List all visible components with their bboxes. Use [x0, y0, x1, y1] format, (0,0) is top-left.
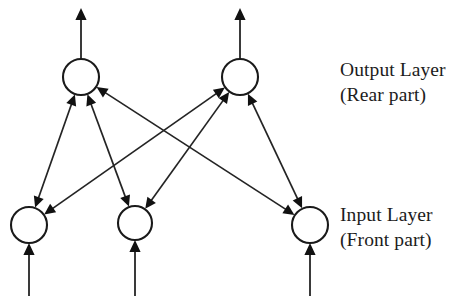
connection-i2-o1 [86, 94, 130, 206]
input-node-2 [118, 206, 152, 240]
input-arrow-3 [304, 243, 315, 296]
input-arrow-1 [23, 243, 34, 296]
connection-i2-o2 [145, 92, 229, 209]
input-arrow-1-head [23, 243, 34, 255]
output-layer-label-line2: (Rear part) [340, 84, 426, 106]
arrowhead-to-o1 [66, 94, 76, 106]
connection-i3-o1 [97, 87, 295, 215]
output-arrow-1 [75, 8, 86, 59]
input-layer-label-line1: Input Layer [340, 204, 433, 225]
arrowhead-to-o1 [86, 94, 96, 106]
input-arrow-2-head [129, 240, 140, 252]
output-node-2 [222, 59, 258, 95]
input-arrow-2 [129, 240, 140, 296]
arrowhead-to-i1 [34, 195, 44, 207]
output-arrow-2 [234, 8, 245, 59]
input-node-3 [292, 207, 328, 243]
output-node-1 [63, 59, 99, 95]
arrowhead-to-i1 [44, 204, 56, 215]
input-arrow-3-head [304, 243, 315, 255]
input-layer-label-line2: (Front part) [340, 229, 432, 251]
external-arrows-group [23, 8, 315, 296]
output-layer-label-line1: Output Layer [340, 59, 446, 80]
output-layer-label: Output Layer (Rear part) [340, 59, 446, 106]
output-arrow-1-head [75, 8, 86, 20]
input-layer-label: Input Layer (Front part) [340, 204, 433, 251]
arrowhead-to-i3 [282, 205, 294, 215]
output-arrow-2-head [234, 8, 245, 20]
network-canvas: Output Layer (Rear part) Input Layer (Fr… [0, 0, 468, 296]
nodes-group [11, 59, 328, 243]
connection-i1-o1 [34, 94, 76, 207]
input-node-1 [11, 207, 47, 243]
arrowhead-to-o1 [97, 87, 109, 97]
connections-group [34, 87, 302, 215]
arrowhead-to-i2 [145, 197, 156, 209]
neural-network-diagram: Output Layer (Rear part) Input Layer (Fr… [0, 0, 468, 296]
arrowhead-to-i2 [120, 194, 130, 206]
